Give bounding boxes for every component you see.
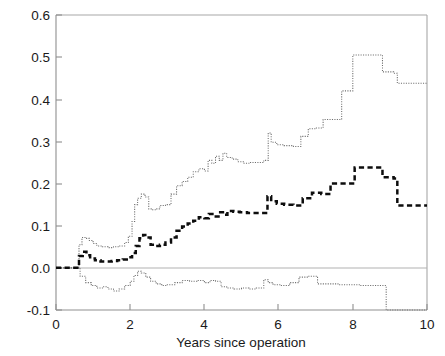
y-tick-label-0.2: 0.2 [31, 177, 50, 192]
y-tick-label-0.4: 0.4 [31, 93, 50, 108]
plot-frame [56, 15, 427, 310]
x-tick-label-8: 8 [349, 317, 357, 332]
series-estimate-curve [56, 168, 427, 268]
series-lower-confidence-band [56, 268, 427, 310]
x-tick-label-4: 4 [200, 317, 208, 332]
x-tick-label-6: 6 [274, 317, 282, 332]
y-tick-label-0.6: 0.6 [31, 8, 50, 23]
x-tick-label-10: 10 [419, 317, 434, 332]
y-tick-label-0.1: 0.1 [31, 219, 50, 234]
y-tick-marks [56, 15, 62, 310]
x-tick-label-0: 0 [52, 317, 60, 332]
y-tick-label-neg0.1: -0.1 [27, 303, 50, 318]
y-tick-label-0.0: 0.0 [31, 261, 50, 276]
y-tick-labels: 0.6 0.5 0.4 0.3 0.2 0.1 0.0 -0.1 [27, 8, 51, 318]
y-tick-label-0.3: 0.3 [31, 135, 50, 150]
x-tick-marks [56, 304, 427, 310]
series-upper-confidence-band [56, 55, 427, 268]
x-tick-label-2: 2 [126, 317, 134, 332]
x-tick-labels: 0 2 4 6 8 10 [52, 317, 434, 332]
x-axis-title: Years since operation [176, 335, 305, 350]
data-curves [56, 55, 427, 310]
y-tick-label-0.5: 0.5 [31, 50, 50, 65]
figure-container: 0.6 0.5 0.4 0.3 0.2 0.1 0.0 -0.1 0 2 4 6… [0, 0, 445, 356]
step-plot-chart: 0.6 0.5 0.4 0.3 0.2 0.1 0.0 -0.1 0 2 4 6… [0, 0, 445, 356]
